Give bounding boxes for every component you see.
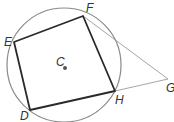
tangent-segment-hg xyxy=(115,79,168,91)
label-d: D xyxy=(20,109,29,122)
label-g: G xyxy=(166,81,174,95)
label-c: C xyxy=(56,55,65,69)
label-f: F xyxy=(86,1,94,15)
geometry-diagram: EFCHDG xyxy=(0,0,174,122)
label-e: E xyxy=(4,35,13,49)
label-h: H xyxy=(115,93,124,107)
